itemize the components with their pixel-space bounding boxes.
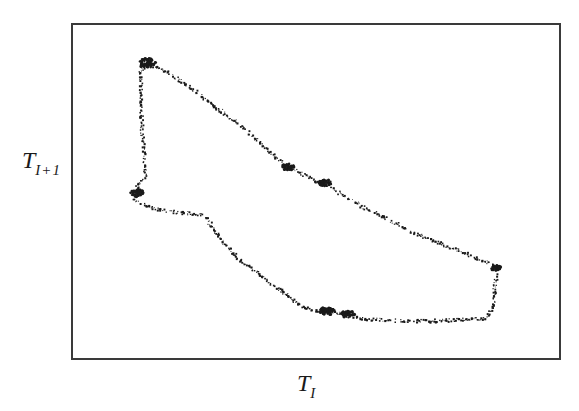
data-point [494, 289, 496, 291]
data-point [144, 68, 146, 70]
data-point [161, 69, 162, 70]
data-point [356, 316, 358, 318]
data-point [222, 241, 224, 243]
data-point [209, 225, 210, 226]
data-point [364, 205, 366, 207]
data-point-cluster [140, 63, 142, 65]
data-point [379, 215, 381, 217]
data-point [142, 128, 143, 129]
data-point [142, 115, 144, 117]
data-point [184, 82, 185, 83]
return-map-scatter [0, 0, 579, 411]
data-point [487, 313, 489, 315]
data-point [407, 319, 409, 321]
data-point [493, 308, 494, 309]
data-point [477, 258, 478, 259]
data-point [376, 318, 377, 319]
data-point [159, 210, 161, 212]
data-point [300, 174, 301, 175]
data-point [301, 307, 303, 309]
data-point [231, 251, 232, 252]
data-point [495, 280, 496, 281]
data-point [407, 321, 408, 322]
data-point [493, 288, 494, 289]
data-point [220, 112, 222, 114]
data-point [344, 196, 345, 197]
data-point [357, 203, 359, 205]
data-point [391, 220, 393, 222]
data-point [455, 320, 457, 322]
data-point [142, 129, 144, 131]
data-point [416, 320, 417, 321]
data-point [171, 210, 172, 211]
data-point-cluster [138, 190, 140, 192]
data-point [434, 318, 436, 320]
data-point-cluster [291, 166, 293, 168]
data-point [280, 288, 282, 290]
data-point [427, 238, 428, 239]
data-point [243, 126, 244, 127]
data-point [225, 244, 227, 246]
data-point [339, 312, 340, 313]
data-point [142, 70, 143, 71]
data-point [432, 321, 433, 322]
data-point [442, 320, 443, 321]
data-point [144, 158, 146, 160]
data-point [493, 295, 495, 297]
data-point [218, 110, 219, 111]
data-point [494, 301, 495, 302]
data-point-cluster [328, 311, 330, 313]
data-point [488, 261, 490, 263]
data-point [254, 270, 255, 271]
data-point [152, 66, 154, 68]
data-point [210, 103, 212, 105]
data-point [144, 148, 145, 149]
data-point [333, 187, 335, 189]
data-point [442, 243, 444, 245]
y-axis-label-main: T [22, 147, 35, 173]
data-point [187, 211, 188, 212]
data-point [263, 276, 264, 277]
data-point [425, 238, 426, 239]
data-point [395, 318, 396, 319]
data-point [223, 240, 224, 241]
data-point [422, 238, 423, 239]
data-point-cluster [141, 58, 143, 60]
data-point [493, 292, 495, 294]
data-point [303, 306, 305, 308]
data-point [141, 79, 142, 80]
data-point [143, 142, 144, 143]
data-point [336, 190, 337, 191]
data-point [423, 319, 425, 321]
data-point [273, 285, 275, 287]
data-point [179, 81, 181, 83]
data-point [441, 321, 442, 322]
data-point [143, 158, 144, 159]
data-point [482, 260, 484, 262]
data-point [146, 174, 147, 175]
data-point [340, 192, 341, 193]
data-point-cluster [350, 314, 352, 316]
data-point-cluster [142, 191, 145, 194]
data-point [467, 253, 469, 255]
data-point [302, 172, 303, 173]
data-point [414, 232, 416, 234]
data-point [146, 175, 148, 177]
data-point [259, 273, 260, 274]
data-point [376, 213, 378, 215]
data-point [207, 101, 209, 103]
data-point [298, 172, 300, 174]
data-point-cluster [329, 307, 331, 309]
data-point [420, 319, 421, 320]
data-point [232, 252, 234, 254]
data-point [464, 320, 465, 321]
data-point [384, 219, 385, 220]
data-point [167, 71, 169, 73]
data-point [141, 125, 143, 127]
data-point [180, 82, 182, 84]
data-point [159, 68, 160, 69]
data-point [369, 211, 370, 212]
data-point [249, 265, 251, 267]
data-point-cluster [322, 312, 325, 315]
data-point [139, 183, 140, 184]
